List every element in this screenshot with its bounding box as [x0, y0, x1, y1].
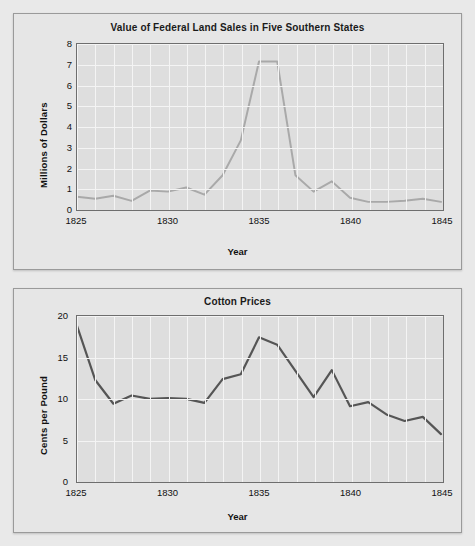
y-axis-tick-label: 8 [44, 38, 72, 49]
y-axis-tick-label: 4 [44, 121, 72, 132]
plot-area-cotton-prices [76, 315, 444, 483]
gridline-horizontal [77, 441, 443, 442]
x-axis-label-cotton-prices: Year [14, 511, 461, 522]
plot-area-land-sales [76, 43, 444, 211]
y-axis-tick-label: 0 [40, 476, 68, 487]
gridline-horizontal [77, 169, 443, 170]
chart-title-land-sales: Value of Federal Land Sales in Five Sout… [14, 22, 461, 33]
y-axis-tick-label: 20 [40, 310, 68, 321]
x-axis-label-land-sales: Year [14, 246, 461, 257]
gridline-horizontal [77, 65, 443, 66]
y-axis-tick-label: 6 [44, 79, 72, 90]
x-axis-tick-label: 1835 [248, 487, 269, 498]
gridline-horizontal [77, 482, 443, 483]
gridline-vertical [443, 44, 444, 210]
x-axis-tick-label: 1825 [65, 487, 86, 498]
y-axis-tick-label: 7 [44, 58, 72, 69]
gridline-horizontal [77, 127, 443, 128]
y-axis-tick-label: 0 [44, 204, 72, 215]
y-axis-tick-label: 10 [40, 393, 68, 404]
gridline-horizontal [77, 358, 443, 359]
chart-card-cotton-prices: Cotton Prices Cents per Pound Year 05101… [13, 288, 462, 533]
y-axis-tick-label: 2 [44, 162, 72, 173]
y-axis-tick-label: 5 [40, 434, 68, 445]
x-axis-tick-label: 1840 [340, 487, 361, 498]
x-axis-tick-label: 1825 [65, 215, 86, 226]
chart-title-cotton-prices: Cotton Prices [14, 296, 461, 307]
gridline-horizontal [77, 316, 443, 317]
x-axis-tick-label: 1835 [248, 215, 269, 226]
x-axis-tick-label: 1830 [157, 215, 178, 226]
gridline-horizontal [77, 189, 443, 190]
x-axis-tick-label: 1840 [340, 215, 361, 226]
y-axis-tick-label: 15 [40, 351, 68, 362]
y-axis-tick-label: 5 [44, 100, 72, 111]
gridline-horizontal [77, 106, 443, 107]
gridline-horizontal [77, 399, 443, 400]
gridline-vertical [443, 316, 444, 482]
faint-page-header [372, 0, 472, 7]
x-axis-tick-label: 1845 [431, 487, 452, 498]
page-root: Value of Federal Land Sales in Five Sout… [0, 0, 475, 546]
x-axis-tick-label: 1845 [431, 215, 452, 226]
gridline-horizontal [77, 210, 443, 211]
gridline-horizontal [77, 86, 443, 87]
gridline-horizontal [77, 148, 443, 149]
chart-card-land-sales: Value of Federal Land Sales in Five Sout… [13, 13, 462, 270]
y-axis-tick-label: 1 [44, 183, 72, 194]
y-axis-tick-label: 3 [44, 141, 72, 152]
gridline-horizontal [77, 44, 443, 45]
x-axis-tick-label: 1830 [157, 487, 178, 498]
